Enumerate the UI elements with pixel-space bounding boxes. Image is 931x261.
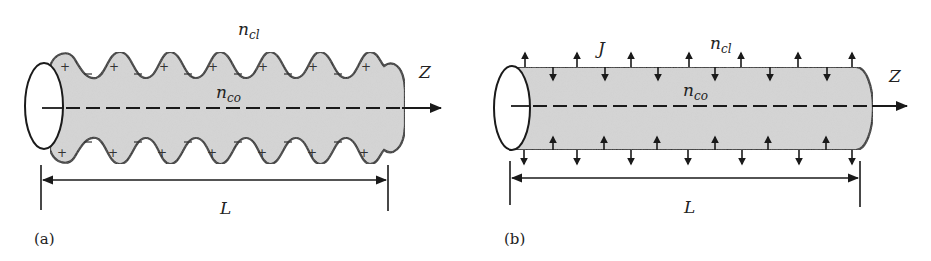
svg-text:+: +: [208, 60, 218, 74]
svg-text:+: +: [359, 146, 369, 160]
svg-text:+: +: [109, 60, 119, 74]
svg-text:+: +: [308, 60, 318, 74]
cladding-index-label: ncl: [710, 33, 732, 56]
outward-current-arrows-bottom: [524, 150, 852, 164]
panel-b-straight-fiber: J ncl nco Z L (b): [494, 33, 907, 248]
length-dimension: [41, 165, 388, 211]
outward-current-arrows-top: [525, 53, 852, 67]
panel-caption-b: (b): [504, 230, 525, 248]
svg-text:+: +: [57, 146, 67, 160]
current-label: J: [595, 38, 606, 58]
svg-text:+: +: [361, 60, 371, 74]
fiber-end-cap: [25, 63, 63, 149]
svg-text:+: +: [258, 60, 268, 74]
svg-text:+: +: [108, 146, 118, 160]
length-label: L: [683, 197, 695, 217]
svg-text:+: +: [157, 146, 167, 160]
z-axis-label: Z: [418, 62, 432, 82]
svg-text:+: +: [257, 146, 267, 160]
fiber-end-cap: [494, 66, 530, 150]
svg-text:+: +: [207, 146, 217, 160]
svg-text:+: +: [159, 60, 169, 74]
cladding-index-label: ncl: [238, 19, 260, 42]
svg-text:+: +: [60, 60, 70, 74]
svg-text:+: +: [307, 146, 317, 160]
panel-a-corrugated-fiber: + + + + + + + + + + + + + + Z ncl nco: [25, 19, 441, 248]
panel-caption-a: (a): [34, 230, 55, 248]
figure-canvas: + + + + + + + + + + + + + + Z ncl nco: [0, 0, 931, 261]
length-label: L: [219, 198, 231, 218]
z-axis-label: Z: [888, 66, 902, 86]
